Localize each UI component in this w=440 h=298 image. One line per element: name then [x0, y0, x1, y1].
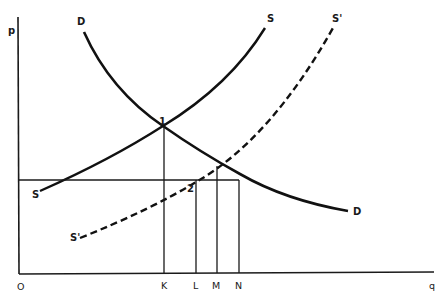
shifted-supply-label-end: S': [70, 233, 80, 243]
supply-label-top: S: [267, 14, 274, 24]
equilibrium-point-2-label: 2: [187, 184, 194, 194]
demand-curve: [84, 32, 348, 211]
x-tick-l: L: [193, 281, 198, 291]
equilibrium-point-1-label: 1: [159, 117, 166, 127]
supply-curve-shifted: [80, 28, 333, 238]
supply-demand-diagram: p q O D D S S S' S' 1 2 K L M N: [0, 0, 440, 298]
y-axis: [18, 17, 19, 274]
x-tick-m: M: [212, 281, 220, 291]
demand-label-top: D: [77, 17, 85, 27]
supply-label-end: S: [32, 190, 39, 200]
x-axis-label: q: [429, 281, 435, 291]
x-tick-k: K: [161, 281, 167, 291]
y-axis-label: p: [8, 26, 15, 36]
demand-label-end: D: [353, 207, 361, 217]
shifted-supply-label-top: S': [332, 14, 342, 24]
diagram-canvas: [0, 0, 440, 298]
supply-curve: [40, 28, 265, 191]
x-axis: [19, 272, 434, 274]
x-tick-n: N: [235, 281, 242, 291]
origin-label: O: [17, 282, 24, 292]
